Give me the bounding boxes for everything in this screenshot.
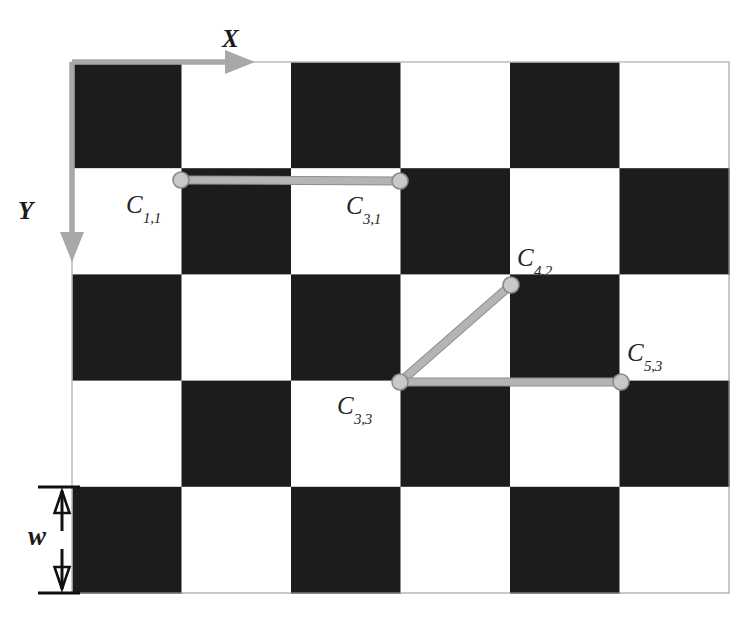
corner-label-subscript: 1,1	[143, 210, 161, 226]
board-square-dark-r5c1	[72, 487, 182, 594]
corner-marker-C_3_3[interactable]	[392, 374, 408, 390]
corner-marker-C_5_3[interactable]	[613, 374, 629, 390]
corner-label-subscript: 4,2	[534, 263, 552, 279]
board-square-dark-r1c3	[291, 62, 401, 169]
board-square-light-r5c2	[182, 487, 292, 594]
y-axis-label: Y	[18, 198, 33, 223]
board-square-light-r5c6	[620, 487, 730, 594]
board-square-light-r1c6	[620, 62, 730, 169]
board-square-light-r1c4	[401, 62, 511, 169]
board-square-dark-r1c5	[510, 62, 620, 169]
board-square-dark-r2c6	[620, 168, 730, 275]
corner-label-base: C	[627, 339, 644, 366]
corner-label-C_1_1: C1,1	[126, 192, 161, 222]
board-square-light-r4c5	[510, 381, 620, 488]
x-axis-label-text: X	[222, 25, 239, 52]
corner-label-C_3_3: C3,3	[337, 393, 372, 423]
board-square-dark-r4c2	[182, 381, 292, 488]
board-square-light-r1c2	[182, 62, 292, 169]
corner-label-C_5_3: C5,3	[627, 340, 662, 370]
corner-marker-C_4_2[interactable]	[503, 277, 519, 293]
corner-label-base: C	[346, 192, 363, 219]
corner-label-subscript: 3,1	[363, 211, 381, 227]
corner-label-C_3_1: C3,1	[346, 193, 381, 223]
board-square-dark-r1c1	[72, 62, 182, 169]
board-square-light-r4c1	[72, 381, 182, 488]
checkerboard-squares	[72, 62, 730, 594]
board-square-dark-r3c3	[291, 274, 401, 381]
corner-label-base: C	[337, 392, 354, 419]
width-dimension-label: w	[28, 523, 46, 550]
board-square-light-r5c4	[401, 487, 511, 594]
corner-label-base: C	[126, 191, 143, 218]
corner-marker-C_1_1[interactable]	[173, 172, 189, 188]
figure-canvas	[0, 0, 749, 622]
corner-marker-C_3_1[interactable]	[392, 173, 408, 189]
board-square-dark-r5c5	[510, 487, 620, 594]
board-square-dark-r2c4	[401, 168, 511, 275]
board-square-dark-r3c1	[72, 274, 182, 381]
corner-label-subscript: 5,3	[644, 358, 662, 374]
x-axis-label: X	[222, 26, 239, 51]
checkerboard-calibration-figure: XYwC1,1C3,1C4,2C3,3C5,3	[0, 0, 749, 622]
connection-line-C_1_1-C_3_1	[181, 180, 400, 181]
board-square-dark-r5c3	[291, 487, 401, 594]
corner-label-base: C	[517, 244, 534, 271]
corner-label-subscript: 3,3	[354, 411, 372, 427]
board-square-light-r3c2	[182, 274, 292, 381]
y-axis-label-text: Y	[18, 197, 33, 224]
width-dimension-label-text: w	[28, 521, 46, 551]
board-square-dark-r4c6	[620, 381, 730, 488]
corner-label-C_4_2: C4,2	[517, 245, 552, 275]
board-square-dark-r3c5	[510, 274, 620, 381]
board-square-dark-r4c4	[401, 381, 511, 488]
